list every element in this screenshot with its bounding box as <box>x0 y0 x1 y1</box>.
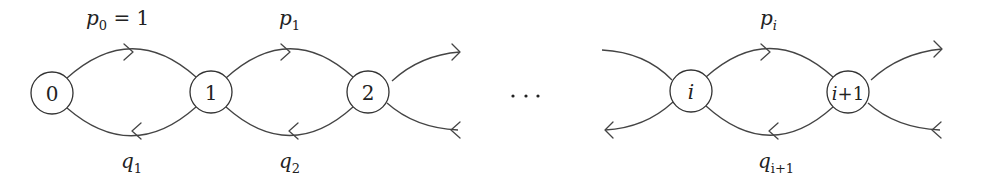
node-2: 2 <box>347 71 389 113</box>
edge-1-to-2 <box>226 44 353 78</box>
node-1: 1 <box>190 71 232 113</box>
node-0: 0 <box>31 72 73 114</box>
arrow-right-icon <box>124 44 133 60</box>
edge-i-to-i+1 <box>706 44 833 77</box>
edge-prev-to-i <box>602 50 672 80</box>
edge-i+1-to-next <box>871 41 942 80</box>
arrow-right-icon <box>761 44 770 60</box>
edge-i-to-prev <box>605 102 673 138</box>
label-q1: q1 <box>121 149 142 176</box>
ellipsis <box>511 94 539 97</box>
node-label: 0 <box>46 82 59 106</box>
edge-1-to-0 <box>67 107 196 139</box>
node-i+1: i+1 <box>827 71 869 113</box>
edge-2-to-1 <box>226 107 353 139</box>
label-q2: q2 <box>279 149 300 176</box>
arrow-left-icon <box>289 123 298 139</box>
label-p1: p1 <box>279 6 300 33</box>
arrow-left-icon <box>132 123 141 139</box>
edge-i+1-to-i <box>706 106 833 139</box>
markov-chain-diagram: 0 1 2 i i+1 p0 = 1 p1 q1 q2 pi qi+1 <box>0 0 982 182</box>
label-qi+1: qi+1 <box>758 149 794 176</box>
node-i: i <box>670 70 712 112</box>
edge-next-to-i+1 <box>868 103 941 138</box>
arrow-left-icon <box>769 123 778 139</box>
label-p0: p0 = 1 <box>86 6 149 33</box>
node-label: i+1 <box>832 83 864 104</box>
node-label: i <box>688 80 694 104</box>
node-label: 1 <box>205 81 218 105</box>
label-pi: pi <box>760 6 777 33</box>
node-label: 2 <box>362 81 375 105</box>
edge-2-to-next <box>392 44 460 81</box>
edge-0-to-1 <box>67 44 196 78</box>
edge-next-to-2 <box>387 103 460 138</box>
arrow-right-icon <box>281 44 290 60</box>
